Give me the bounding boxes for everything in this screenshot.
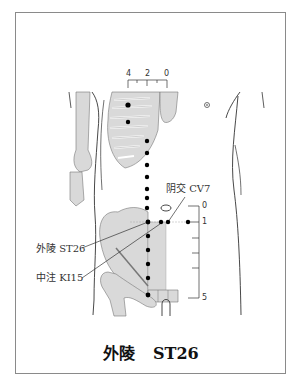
- label-ki15: 中注 KI15: [36, 273, 83, 283]
- side-scale-tick-0: 0: [202, 202, 207, 210]
- point-ki15: [159, 220, 163, 224]
- caption-code: ST26: [153, 344, 199, 363]
- label-st26: 外陵 ST26: [36, 244, 85, 254]
- caption-chinese: 外陵: [103, 344, 135, 363]
- left-torso-outline: [92, 92, 99, 315]
- top-scale-tick-4: 4: [126, 70, 131, 78]
- right-torso-outline: [226, 92, 241, 315]
- top-scale-tick-0: 0: [164, 70, 169, 78]
- side-scale-tick-5: 5: [202, 294, 207, 302]
- point-st26: [146, 220, 151, 225]
- rib-cage: [108, 92, 178, 168]
- label-cv7: 阴交 CV7: [166, 184, 210, 194]
- anatomy-figure: [0, 0, 302, 388]
- top-scale-tick-2: 2: [145, 70, 150, 78]
- side-scale: [188, 206, 199, 298]
- left-arm-bones: [69, 92, 92, 206]
- point-cv7: [166, 220, 170, 224]
- top-scale: [128, 80, 167, 88]
- diagram-caption: 外陵 ST26: [0, 340, 302, 364]
- navel-icon: [161, 205, 171, 211]
- side-scale-tick-1: 1: [202, 218, 207, 226]
